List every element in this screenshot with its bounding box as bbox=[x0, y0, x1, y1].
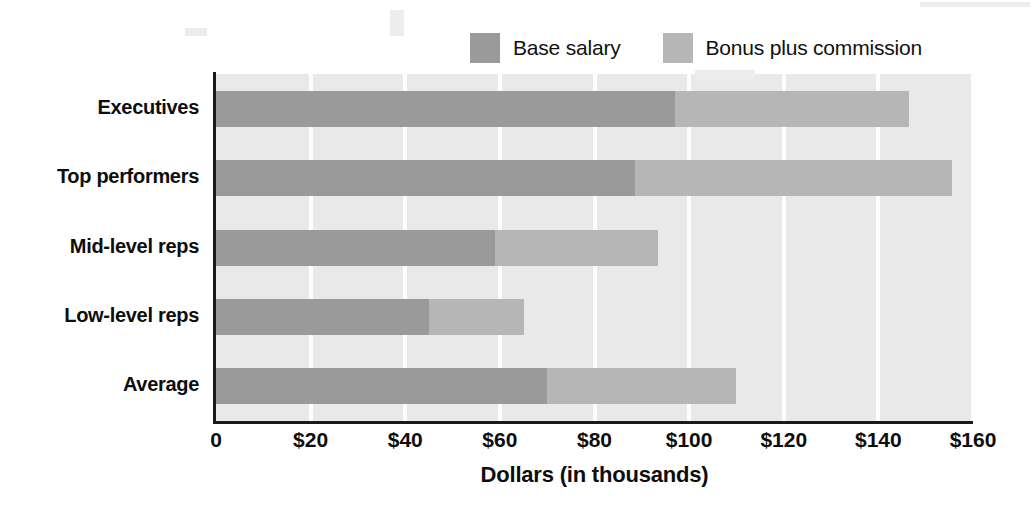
plot-area bbox=[216, 74, 973, 421]
x-tick-label-7: $140 bbox=[855, 428, 902, 452]
y-axis-line bbox=[213, 72, 216, 424]
bar-segment-base-salary bbox=[216, 230, 495, 266]
legend-label-bonus-plus-commission: Bonus plus commission bbox=[706, 36, 922, 60]
bar-segment-base-salary bbox=[216, 160, 635, 196]
x-tick-label-1: $20 bbox=[293, 428, 328, 452]
chart-legend: Base salary Bonus plus commission bbox=[470, 33, 922, 63]
x-axis-line bbox=[213, 421, 973, 424]
bar-row bbox=[216, 91, 909, 127]
bar-row bbox=[216, 160, 952, 196]
gridline bbox=[971, 74, 975, 421]
category-label-0: Executives bbox=[97, 96, 199, 119]
x-tick-label-8: $160 bbox=[950, 428, 997, 452]
category-label-3: Low-level reps bbox=[64, 304, 199, 327]
category-label-2: Mid-level reps bbox=[70, 235, 199, 258]
bar-row bbox=[216, 299, 524, 335]
bar-segment-bonus-plus-commission bbox=[495, 230, 658, 266]
x-tick-label-6: $120 bbox=[760, 428, 807, 452]
bar-segment-bonus-plus-commission bbox=[429, 299, 524, 335]
scan-artifact bbox=[695, 70, 755, 80]
category-label-1: Top performers bbox=[57, 165, 199, 188]
bar-segment-bonus-plus-commission bbox=[635, 160, 952, 196]
bar-row bbox=[216, 230, 658, 266]
legend-entry-bonus-plus-commission: Bonus plus commission bbox=[663, 33, 922, 63]
bar-segment-base-salary bbox=[216, 368, 547, 404]
legend-swatch-icon-bonus-plus-commission bbox=[663, 33, 693, 63]
x-tick-label-0: 0 bbox=[210, 428, 222, 452]
category-axis-labels: ExecutivesTop performersMid-level repsLo… bbox=[0, 0, 205, 509]
bar-row bbox=[216, 368, 736, 404]
category-label-4: Average bbox=[123, 373, 199, 396]
x-tick-label-5: $100 bbox=[666, 428, 713, 452]
x-axis-title: Dollars (in thousands) bbox=[216, 462, 973, 488]
x-tick-label-2: $40 bbox=[388, 428, 423, 452]
bar-segment-base-salary bbox=[216, 299, 429, 335]
x-tick-label-4: $80 bbox=[577, 428, 612, 452]
x-tick-label-3: $60 bbox=[482, 428, 517, 452]
scan-artifact bbox=[920, 2, 1030, 7]
legend-label-base-salary: Base salary bbox=[513, 36, 621, 60]
scan-artifact bbox=[390, 10, 404, 36]
bar-segment-base-salary bbox=[216, 91, 675, 127]
scan-artifact bbox=[185, 28, 207, 36]
bar-segment-bonus-plus-commission bbox=[547, 368, 736, 404]
legend-swatch-icon-base-salary bbox=[470, 33, 500, 63]
bar-segment-bonus-plus-commission bbox=[675, 91, 909, 127]
legend-entry-base-salary: Base salary bbox=[470, 33, 621, 63]
